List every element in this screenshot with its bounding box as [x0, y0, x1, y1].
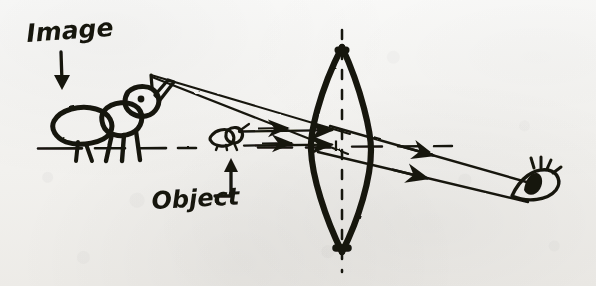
ray-diagram-svg: Image Object	[0, 0, 596, 286]
image-down-arrow	[54, 52, 70, 90]
incident-ray-lower	[244, 145, 332, 146]
refracted-ray-upper	[330, 126, 530, 183]
diagram-canvas: Image Object	[0, 0, 596, 286]
object-label: Object	[151, 182, 242, 215]
incident-ray-upper	[240, 130, 332, 131]
refracted-ray-lower	[318, 152, 528, 202]
image-label: Image	[25, 13, 114, 48]
observer-eye	[512, 157, 561, 200]
